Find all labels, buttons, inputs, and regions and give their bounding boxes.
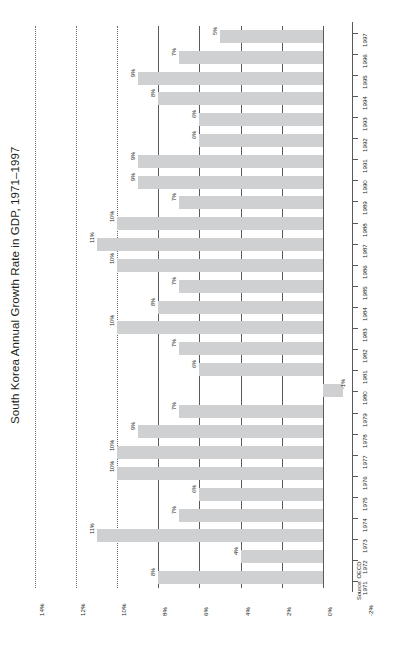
chart-title: South Korea Annual Growth Rate in GDP, 1… <box>9 0 21 424</box>
bar-1992 <box>199 134 322 147</box>
bar-1976 <box>117 467 323 480</box>
bar-label-1995: 9% <box>130 68 136 76</box>
year-tick-1993 <box>353 117 358 118</box>
year-tick-1977 <box>353 455 358 456</box>
gridline-14 <box>35 26 36 588</box>
bar-1978 <box>138 425 323 438</box>
bar-label-1973: 11% <box>89 524 95 535</box>
gridline-12 <box>76 26 77 588</box>
gridline-0 <box>323 26 324 588</box>
bar-label-1980: -1% <box>340 379 346 389</box>
year-tick-1994 <box>353 96 358 97</box>
year-label-1986: 1986 <box>361 265 368 279</box>
bar-1974 <box>179 509 323 522</box>
plot-area: 5%7%9%8%6%6%9%9%7%10%11%10%7%8%10%7%6%-1… <box>35 26 337 588</box>
year-tick-1983 <box>353 328 358 329</box>
year-tick-1990 <box>353 180 358 181</box>
bar-label-1979: 7% <box>171 401 177 409</box>
year-label-1975: 1975 <box>361 497 368 511</box>
year-tick-1973 <box>353 539 358 540</box>
value-tick-4: 4% <box>244 607 251 616</box>
year-tick-1997 <box>353 33 358 34</box>
value-tick-0: 0% <box>326 607 333 616</box>
bar-label-1974: 7% <box>171 506 177 514</box>
bar-label-1993: 6% <box>191 110 197 118</box>
bar-label-1985: 7% <box>171 277 177 285</box>
bar-1991 <box>138 155 323 168</box>
year-tick-1976 <box>353 476 358 477</box>
bar-1979 <box>179 405 323 418</box>
bar-1997 <box>220 30 323 43</box>
bar-1993 <box>199 113 322 126</box>
year-label-1976: 1976 <box>361 476 368 490</box>
year-label-1997: 1997 <box>361 33 368 47</box>
bar-1986 <box>117 259 323 272</box>
bar-label-1984: 8% <box>150 297 156 305</box>
year-label-1994: 1994 <box>361 96 368 110</box>
year-tick-1981 <box>353 370 358 371</box>
value-axis: 14%12%10%8%6%4%2%0%-2%-4% <box>35 590 337 624</box>
bar-label-1983: 10% <box>109 315 115 326</box>
gridline-10 <box>117 26 118 588</box>
bar-label-1997: 5% <box>212 27 218 35</box>
bar-1985 <box>179 280 323 293</box>
value-tick-10: 10% <box>120 604 127 616</box>
year-tick-1987 <box>353 244 358 245</box>
year-tick-1982 <box>353 349 358 350</box>
bar-label-1991: 9% <box>130 152 136 160</box>
value-tick-2: 2% <box>285 607 292 616</box>
year-label-1981: 1981 <box>361 371 368 385</box>
bar-1995 <box>138 72 323 85</box>
year-label-1988: 1988 <box>361 223 368 237</box>
year-label-1987: 1987 <box>361 244 368 258</box>
bar-1990 <box>138 176 323 189</box>
bar-label-1972: 4% <box>233 547 239 555</box>
bar-1996 <box>179 51 323 64</box>
bar-1971 <box>158 571 322 584</box>
bar-1987 <box>97 238 323 251</box>
bar-1984 <box>158 301 322 314</box>
value-tick-8: 8% <box>161 607 168 616</box>
year-tick-1995 <box>353 75 358 76</box>
year-label-1993: 1993 <box>361 117 368 131</box>
year-tick-1988 <box>353 223 358 224</box>
year-label-1989: 1989 <box>361 202 368 216</box>
bar-label-1978: 9% <box>130 422 136 430</box>
bar-label-1989: 7% <box>171 193 177 201</box>
year-tick-1985 <box>353 286 358 287</box>
year-tick-1974 <box>353 518 358 519</box>
year-label-1977: 1977 <box>361 455 368 469</box>
bar-label-1977: 10% <box>109 440 115 451</box>
year-tick-1979 <box>353 413 358 414</box>
bar-label-1988: 10% <box>109 211 115 222</box>
year-tick-1992 <box>353 138 358 139</box>
value-tick-6: 6% <box>202 607 209 616</box>
bar-label-1990: 9% <box>130 173 136 181</box>
year-label-1978: 1978 <box>361 434 368 448</box>
bar-label-1981: 6% <box>191 360 197 368</box>
year-label-1979: 1979 <box>361 413 368 427</box>
bar-label-1971: 8% <box>150 568 156 576</box>
bar-1975 <box>199 488 322 501</box>
year-label-1982: 1982 <box>361 349 368 363</box>
year-label-1980: 1980 <box>361 392 368 406</box>
bar-label-1994: 8% <box>150 89 156 97</box>
bar-1977 <box>117 446 323 459</box>
source-note: Source: OECD <box>356 562 362 600</box>
bar-label-1982: 7% <box>171 339 177 347</box>
year-label-1984: 1984 <box>361 307 368 321</box>
bar-label-1996: 7% <box>171 48 177 56</box>
bar-label-1975: 6% <box>191 485 197 493</box>
bar-label-1992: 6% <box>191 131 197 139</box>
year-tick-1978 <box>353 434 358 435</box>
category-axis: 1997199619951994199319921991199019891988… <box>352 22 397 592</box>
bar-1983 <box>117 321 323 334</box>
year-tick-1980 <box>353 391 358 392</box>
year-label-1983: 1983 <box>361 328 368 342</box>
year-tick-1989 <box>353 201 358 202</box>
bar-1994 <box>158 92 322 105</box>
year-tick-1996 <box>353 54 358 55</box>
year-label-1991: 1991 <box>361 159 368 173</box>
value-tick-neg2: -2% <box>367 605 374 616</box>
year-tick-1986 <box>353 265 358 266</box>
